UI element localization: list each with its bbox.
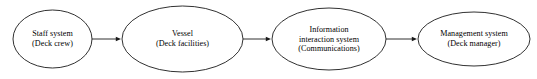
- diagram-vector-layer: [0, 0, 537, 79]
- arrowhead-icon: [266, 37, 271, 42]
- arrowhead-icon: [116, 37, 121, 42]
- arrowhead-icon: [412, 37, 417, 42]
- node-shape-staff-system[interactable]: [13, 10, 92, 68]
- arrow-information-to-management: [386, 37, 417, 42]
- node-shape-information-interaction-system[interactable]: [272, 8, 386, 70]
- arrow-vessel-to-information: [243, 37, 271, 42]
- node-shape-management-system[interactable]: [418, 12, 530, 66]
- arrow-staff-to-vessel: [92, 37, 121, 42]
- flow-diagram: Staff system(Deck crew) Vessel(Deck faci…: [0, 0, 537, 79]
- node-shape-vessel[interactable]: [122, 6, 243, 72]
